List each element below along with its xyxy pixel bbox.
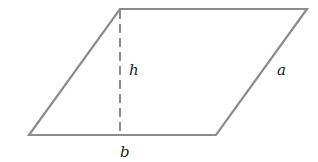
parallelogram-shape	[29, 9, 307, 135]
height-label: h	[129, 63, 139, 78]
base-label: b	[120, 145, 130, 160]
side-label: a	[277, 63, 286, 78]
diagram-canvas	[0, 0, 318, 162]
parallelogram-diagram: h a b	[0, 0, 318, 162]
